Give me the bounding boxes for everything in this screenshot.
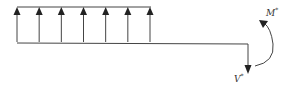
load-arrowhead-icon bbox=[102, 7, 109, 15]
shear-label: V* bbox=[234, 72, 244, 84]
moment-label: M* bbox=[265, 6, 278, 18]
load-arrowhead-icon bbox=[36, 7, 43, 15]
shear-arrowhead-icon bbox=[245, 65, 252, 74]
beam-line bbox=[17, 43, 248, 44]
load-arrowhead-icon bbox=[58, 7, 65, 15]
distributed-load bbox=[14, 7, 154, 42]
load-arrowhead-icon bbox=[147, 7, 154, 15]
moment-arrowhead-icon bbox=[259, 20, 268, 28]
free-body-diagram: M* V* bbox=[0, 0, 296, 91]
load-arrowhead-icon bbox=[14, 7, 21, 15]
load-arrowhead-icon bbox=[124, 7, 131, 15]
moment-arc bbox=[255, 23, 273, 66]
load-arrowhead-icon bbox=[80, 7, 87, 15]
